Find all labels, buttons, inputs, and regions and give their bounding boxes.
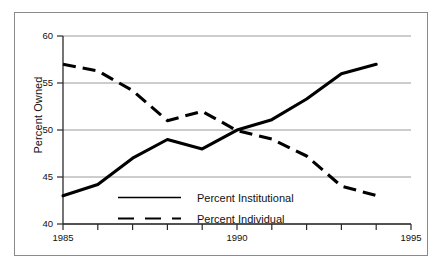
x-tick-label-1990: 1990	[226, 232, 247, 243]
y-tick-label-55: 55	[42, 77, 53, 88]
legend-label-percent-individual: Percent Individual	[197, 213, 284, 225]
x-tick-label-1995: 1995	[400, 232, 421, 243]
figure-frame: Percent Owned 60	[14, 12, 428, 256]
y-tick-label-50: 50	[42, 124, 53, 135]
y-tick-label-60: 60	[42, 30, 53, 41]
plot-area: 60 55 50 45 40 1985 1990 1995	[15, 13, 427, 255]
x-tick-label-1985: 1985	[52, 232, 73, 243]
x-tick-marks	[63, 224, 411, 230]
y-tick-label-45: 45	[42, 171, 53, 182]
y-tick-label-40: 40	[42, 218, 53, 229]
chart-legend: Percent Institutional Percent Individual	[118, 192, 294, 225]
legend-label-percent-institutional: Percent Institutional	[197, 192, 294, 204]
chart-figure: Percent Owned 60	[0, 0, 443, 268]
